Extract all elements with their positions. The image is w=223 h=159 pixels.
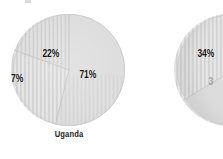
pie-partial-svg (172, 13, 223, 127)
figure-canvas: 71% 22% 7% Uganda (0, 0, 223, 159)
pie-partial-label-34: 34% (197, 48, 214, 59)
clipped-top-artifact (25, 0, 31, 3)
pie-partial-label-secondary: 3 (208, 76, 213, 87)
pie-partial-shading (177, 14, 223, 126)
pie-uganda-label-7: 7% (11, 73, 23, 84)
pie-chart-partial: 34% 3 (172, 13, 223, 127)
pie-chart-uganda-graphic: 71% 22% 7% Uganda (8, 13, 130, 127)
pie-uganda-svg (8, 13, 130, 127)
pie-uganda-caption: Uganda (18, 129, 120, 139)
pie-uganda-label-22: 22% (42, 48, 59, 59)
pie-chart-partial-graphic: 34% 3 (172, 13, 223, 127)
pie-uganda-label-71: 71% (79, 69, 96, 80)
pie-chart-uganda: 71% 22% 7% Uganda (8, 13, 130, 127)
